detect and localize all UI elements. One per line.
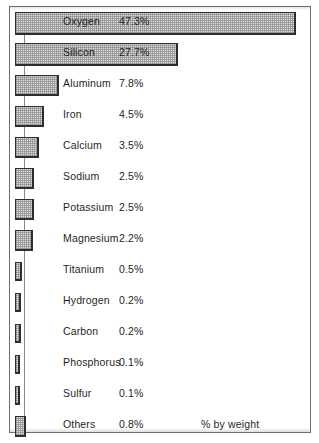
bar-row: Iron4.5% <box>10 103 312 134</box>
element-name-label: Hydrogen <box>63 294 110 306</box>
element-name-label: Carbon <box>63 325 98 337</box>
element-percentage-value: 0.5% <box>119 263 144 275</box>
element-percentage-value: 27.7% <box>119 46 150 58</box>
bar-rect <box>15 75 59 96</box>
bar-row: Phosphorus0.1% <box>10 351 312 382</box>
bar-row: Carbon0.2% <box>10 320 312 351</box>
bar-rect <box>15 168 34 189</box>
bar-rect <box>15 199 34 220</box>
bar-row: Others0.8% <box>10 413 312 443</box>
element-percentage-value: 0.1% <box>119 387 144 399</box>
bar-rect <box>15 386 20 405</box>
element-name-label: Sodium <box>63 170 100 182</box>
bar-rect <box>15 43 178 66</box>
bar-rect <box>15 262 22 281</box>
bar-rect <box>15 293 21 312</box>
element-percentage-value: 0.1% <box>119 356 144 368</box>
bar-row: Oxygen47.3% <box>10 10 312 41</box>
bar-rect <box>15 12 296 35</box>
element-percentage-value: 3.5% <box>119 139 144 151</box>
bar-row: Sodium2.5% <box>10 165 312 196</box>
unit-note-label: % by weight <box>201 418 259 430</box>
element-name-label: Potassium <box>63 201 113 213</box>
bar-row: Hydrogen0.2% <box>10 289 312 320</box>
element-percentage-value: 4.5% <box>119 108 144 120</box>
bar-row: Potassium2.5% <box>10 196 312 227</box>
element-percentage-value: 2.5% <box>119 170 144 182</box>
element-name-label: Iron <box>63 108 82 120</box>
bar-rect <box>15 106 44 127</box>
bar-rect <box>15 137 39 158</box>
element-percentage-value: 0.2% <box>119 325 144 337</box>
element-name-label: Oxygen <box>63 15 100 27</box>
element-name-label: Silicon <box>63 46 95 58</box>
bar-row: Calcium3.5% <box>10 134 312 165</box>
element-name-label: Magnesium <box>63 232 119 244</box>
element-abundance-bar-chart: Oxygen47.3%Silicon27.7%Aluminum7.8%Iron4… <box>9 6 311 433</box>
element-percentage-value: 0.8% <box>119 418 144 430</box>
bar-row: Titanium0.5% <box>10 258 312 289</box>
element-name-label: Sulfur <box>63 387 91 399</box>
element-percentage-value: 7.8% <box>119 77 144 89</box>
element-name-label: Calcium <box>63 139 102 151</box>
bar-row: Aluminum7.8% <box>10 72 312 103</box>
element-percentage-value: 2.5% <box>119 201 144 213</box>
bar-rect <box>15 230 33 251</box>
element-name-label: Titanium <box>63 263 104 275</box>
bar-row: Magnesium2.2% <box>10 227 312 258</box>
element-name-label: Others <box>63 418 95 430</box>
element-name-label: Aluminum <box>63 77 111 89</box>
bar-rect <box>15 416 26 437</box>
bar-row: Sulfur0.1% <box>10 382 312 413</box>
bar-row: Silicon27.7% <box>10 41 312 72</box>
element-percentage-value: 47.3% <box>119 15 150 27</box>
element-percentage-value: 0.2% <box>119 294 144 306</box>
element-name-label: Phosphorus <box>63 356 121 368</box>
bar-rect <box>15 355 20 374</box>
bar-rect <box>15 324 21 343</box>
element-percentage-value: 2.2% <box>119 232 144 244</box>
